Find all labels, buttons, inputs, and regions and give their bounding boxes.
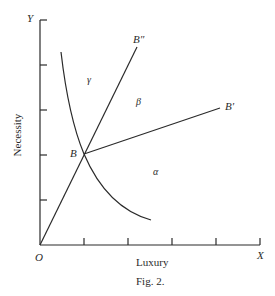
region-beta-label: β (136, 96, 141, 107)
point-b-double-prime-label: B″ (133, 33, 144, 45)
point-b-label: B (70, 147, 77, 159)
y-axis-label: Necessity (11, 112, 23, 158)
y-axis-end-label: Y (27, 12, 33, 24)
region-gamma-label: γ (87, 74, 91, 85)
region-alpha-label: α (153, 166, 158, 177)
x-axis-label: Luxury (136, 256, 168, 268)
point-b-prime-label: B′ (225, 100, 234, 112)
origin-label: O (35, 251, 43, 263)
x-axis-end-label: X (257, 249, 264, 261)
figure-caption: Fig. 2. (136, 275, 164, 287)
